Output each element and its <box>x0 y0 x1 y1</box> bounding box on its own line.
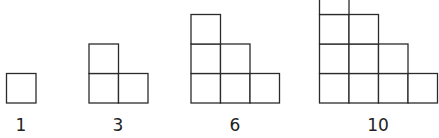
figure-label: 1 <box>16 115 27 135</box>
staircase-squares <box>320 0 438 103</box>
unit-square <box>191 74 221 104</box>
unit-square <box>320 44 350 74</box>
figure-3: 3 <box>89 44 148 135</box>
unit-square <box>349 74 379 104</box>
unit-square <box>250 74 280 104</box>
figure-label: 3 <box>113 115 124 135</box>
figure-label: 10 <box>367 115 389 135</box>
staircase-squares <box>7 74 37 104</box>
staircase-squares <box>191 15 280 104</box>
unit-square <box>221 44 251 74</box>
unit-square <box>191 44 221 74</box>
unit-square <box>349 44 379 74</box>
unit-square <box>379 44 409 74</box>
unit-square <box>320 15 350 45</box>
figure-label: 6 <box>230 115 241 135</box>
unit-square <box>7 74 37 104</box>
unit-square <box>119 74 149 104</box>
staircase-squares <box>89 44 148 103</box>
triangular-number-diagram: 1 3 6 10 <box>0 0 439 138</box>
unit-square <box>379 74 409 104</box>
unit-square <box>191 15 221 45</box>
figure-6: 6 <box>191 15 280 136</box>
figure-1: 1 <box>7 74 37 136</box>
figure-10: 10 <box>320 0 438 135</box>
unit-square <box>221 74 251 104</box>
unit-square <box>320 74 350 104</box>
unit-square <box>349 15 379 45</box>
unit-square <box>408 74 438 104</box>
unit-square <box>89 44 119 74</box>
unit-square <box>320 0 350 15</box>
unit-square <box>89 74 119 104</box>
